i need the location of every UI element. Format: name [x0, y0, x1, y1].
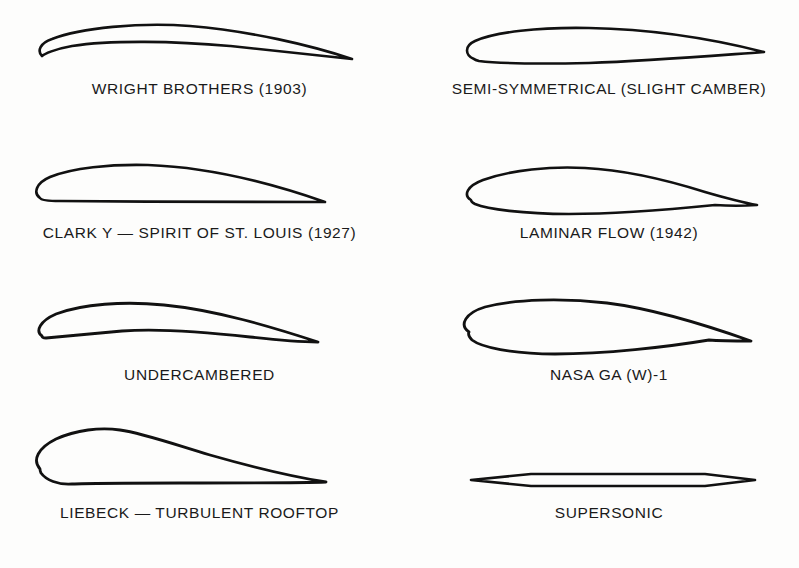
- airfoil-cell-undercambered: UNDERCAMBERED: [0, 280, 399, 416]
- airfoil-cell-semi-symmetrical: SEMI-SYMMETRICAL (SLIGHT CAMBER): [399, 0, 799, 140]
- airfoil-shape-semi-symmetrical: [399, 14, 799, 76]
- airfoil-shape-clark-y: [0, 158, 399, 220]
- airfoil-label-clark-y: CLARK Y — SPIRIT OF ST. LOUIS (1927): [0, 224, 425, 242]
- airfoil-shape-nasa-ga-w1: [399, 296, 799, 360]
- airfoil-profile-icon: [0, 296, 399, 360]
- airfoil-profile-icon: [399, 424, 799, 494]
- airfoil-cell-clark-y: CLARK Y — SPIRIT OF ST. LOUIS (1927): [0, 140, 399, 280]
- airfoil-profile-icon: [0, 158, 399, 220]
- airfoil-label-nasa-ga-w1: NASA GA (W)-1: [399, 366, 799, 384]
- airfoil-chart-sheet: WRIGHT BROTHERS (1903) SEMI-SYMMETRICAL …: [0, 0, 799, 568]
- airfoil-shape-laminar-flow: [399, 158, 799, 220]
- airfoil-label-wright-brothers: WRIGHT BROTHERS (1903): [0, 80, 425, 98]
- airfoil-label-liebeck: LIEBECK — TURBULENT ROOFTOP: [0, 504, 425, 522]
- airfoil-cell-supersonic: SUPERSONIC: [399, 416, 799, 568]
- airfoil-profile-icon: [0, 14, 399, 76]
- airfoil-label-laminar-flow: LAMINAR FLOW (1942): [399, 224, 799, 242]
- airfoil-label-semi-symmetrical: SEMI-SYMMETRICAL (SLIGHT CAMBER): [399, 80, 799, 98]
- airfoil-cell-liebeck: LIEBECK — TURBULENT ROOFTOP: [0, 416, 399, 568]
- airfoil-grid: WRIGHT BROTHERS (1903) SEMI-SYMMETRICAL …: [0, 0, 799, 568]
- airfoil-profile-icon: [399, 158, 799, 220]
- airfoil-profile-icon: [399, 14, 799, 76]
- airfoil-cell-laminar-flow: LAMINAR FLOW (1942): [399, 140, 799, 280]
- airfoil-shape-undercambered: [0, 296, 399, 360]
- airfoil-cell-nasa-ga-w1: NASA GA (W)-1: [399, 280, 799, 416]
- airfoil-shape-wright-brothers: [0, 14, 399, 76]
- airfoil-shape-supersonic: [399, 424, 799, 494]
- airfoil-shape-liebeck: [0, 424, 399, 494]
- airfoil-cell-wright-brothers: WRIGHT BROTHERS (1903): [0, 0, 399, 140]
- airfoil-profile-icon: [0, 424, 399, 494]
- airfoil-profile-icon: [399, 296, 799, 360]
- airfoil-label-undercambered: UNDERCAMBERED: [0, 366, 425, 384]
- airfoil-label-supersonic: SUPERSONIC: [399, 504, 799, 522]
